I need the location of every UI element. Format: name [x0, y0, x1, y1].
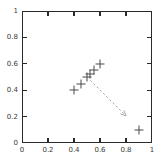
- x-axis-tick-top: [99, 12, 100, 16]
- y-axis-tick: [23, 116, 27, 117]
- y-axis-tick: [23, 90, 27, 91]
- y-axis-tick-right: [147, 116, 151, 117]
- x-axis-tick-label: 0.2: [42, 146, 53, 154]
- x-axis-tick-top: [47, 12, 48, 16]
- x-axis-tick-label: 0.6: [94, 146, 105, 154]
- y-axis-tick-label: 0.6: [0, 60, 18, 68]
- y-axis-tick-label: 0.2: [0, 113, 18, 121]
- y-axis-tick-right: [147, 37, 151, 38]
- y-axis-tick-right: [147, 63, 151, 64]
- x-axis-tick-label: 0.4: [68, 146, 79, 154]
- x-axis-tick-top: [125, 12, 126, 16]
- x-axis-tick-label: 0: [20, 146, 24, 154]
- chart-figure: 00.20.40.60.8100.20.40.60.81: [0, 0, 164, 166]
- y-axis-tick-label: 1: [0, 7, 18, 15]
- x-axis-tick: [99, 138, 100, 142]
- x-axis-tick-label: 1: [150, 146, 154, 154]
- x-axis-tick-label: 0.8: [120, 146, 131, 154]
- y-axis-tick-label: 0: [0, 139, 18, 147]
- y-axis-tick: [23, 63, 27, 64]
- x-axis-tick: [73, 138, 74, 142]
- x-axis-tick: [125, 138, 126, 142]
- plot-frame: [22, 11, 152, 143]
- y-axis-tick: [23, 37, 27, 38]
- y-axis-tick-right: [147, 90, 151, 91]
- x-axis-tick: [47, 138, 48, 142]
- y-axis-tick-label: 0.4: [0, 86, 18, 94]
- x-axis-tick-top: [73, 12, 74, 16]
- y-axis-tick-label: 0.8: [0, 33, 18, 41]
